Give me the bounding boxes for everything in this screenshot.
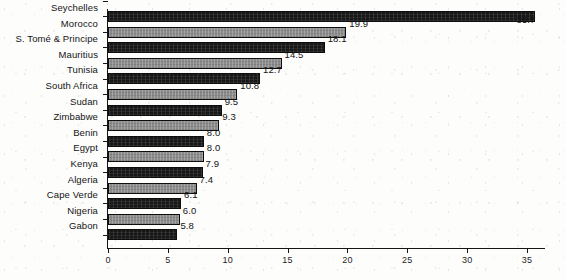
- y-axis-tick: [103, 110, 108, 111]
- bar: [108, 73, 260, 84]
- x-axis-tick-label: 20: [342, 255, 352, 265]
- y-axis-tick: [103, 203, 108, 204]
- bar: [108, 214, 180, 225]
- x-axis-tick-label: 5: [165, 255, 170, 265]
- category-label: Benin: [73, 127, 98, 138]
- x-axis-tick-label: 30: [462, 255, 472, 265]
- bar-value-label: 10.8: [240, 80, 259, 91]
- y-axis-tick: [103, 1, 108, 2]
- category-label: Algeria: [68, 174, 98, 185]
- bar: [108, 120, 219, 131]
- category-axis: SeychellesMoroccoS. Tomé & PrincipeMauri…: [0, 0, 103, 280]
- bar: [108, 27, 346, 38]
- x-axis-tick-label: 0: [105, 255, 110, 265]
- bar: [108, 167, 203, 178]
- y-axis-tick: [103, 79, 108, 80]
- x-axis-tick-label: 15: [282, 255, 292, 265]
- x-axis-tick: [407, 249, 408, 253]
- x-axis-tick-label: 35: [522, 255, 532, 265]
- category-label: Sudan: [70, 96, 98, 107]
- bar: [108, 151, 204, 162]
- bar-value-label: 7.9: [206, 158, 220, 169]
- bar-value-label: 9.5: [225, 96, 239, 107]
- category-label: Mauritius: [59, 49, 98, 60]
- x-axis-tick: [228, 249, 229, 253]
- y-axis-tick: [103, 32, 108, 33]
- category-label: Seychelles: [51, 2, 98, 13]
- bar-value-label: 8.0: [207, 127, 221, 138]
- bar-value-label: 7.4: [200, 174, 214, 185]
- category-label: Nigeria: [67, 205, 98, 216]
- x-axis-tick-label: 25: [402, 255, 412, 265]
- bar-value-label: 12.7: [263, 64, 282, 75]
- category-label: Kenya: [71, 158, 98, 169]
- bar-value-label: 6.0: [183, 205, 197, 216]
- x-axis-tick: [347, 249, 348, 253]
- bar: [108, 105, 222, 116]
- x-axis-tick: [467, 249, 468, 253]
- bar-value-label: 14.5: [285, 49, 304, 60]
- category-label: Egypt: [73, 142, 98, 153]
- y-axis-tick: [103, 125, 108, 126]
- plot-area: [108, 10, 545, 249]
- bar-value-label: 5.8: [180, 220, 194, 231]
- x-axis-tick: [108, 249, 109, 253]
- y-axis-tick: [103, 47, 108, 48]
- category-label: Morocco: [61, 18, 98, 29]
- bar-value-label: 18.1: [328, 33, 347, 44]
- category-label: S. Tomé & Principe: [16, 33, 98, 44]
- x-axis-tick: [168, 249, 169, 253]
- category-label: Zimbabwe: [53, 111, 98, 122]
- y-axis-tick: [103, 172, 108, 173]
- bar: [108, 11, 535, 22]
- horizontal-bar-chart: SeychellesMoroccoS. Tomé & PrincipeMauri…: [0, 0, 567, 280]
- bar-value-label: 6.1: [184, 189, 198, 200]
- bar-value-label: 19.9: [349, 18, 368, 29]
- y-axis-tick: [103, 219, 108, 220]
- y-axis-tick: [103, 16, 108, 17]
- bar-value-label: 9.3: [222, 111, 236, 122]
- bar: [108, 89, 237, 100]
- category-label: Gabon: [69, 220, 98, 231]
- bar: [108, 58, 282, 69]
- x-axis-tick: [288, 249, 289, 253]
- x-axis-tick-label: 10: [223, 255, 233, 265]
- x-axis-tick: [527, 249, 528, 253]
- y-axis-tick: [103, 63, 108, 64]
- bar: [108, 198, 181, 209]
- category-label: South Africa: [46, 80, 98, 91]
- y-axis-tick: [103, 157, 108, 158]
- bar: [108, 229, 177, 240]
- y-axis-tick: [103, 235, 108, 236]
- bar: [108, 136, 204, 147]
- bar-value-label: 8.0: [207, 142, 221, 153]
- y-axis-tick: [103, 141, 108, 142]
- category-label: Tunisia: [67, 64, 98, 75]
- category-label: Cape Verde: [47, 189, 98, 200]
- y-axis-tick: [103, 94, 108, 95]
- y-axis-tick: [103, 188, 108, 189]
- bar-value-label: 35.7: [517, 14, 536, 25]
